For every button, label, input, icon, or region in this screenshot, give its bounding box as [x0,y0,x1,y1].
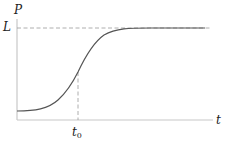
x-axis-label: t [216,114,221,126]
y-axis-label: P [14,4,22,16]
t0-label: t0 [72,126,82,140]
chart-canvas [0,0,227,141]
t0-subscript: 0 [77,131,82,140]
logistic-chart: P L t t0 [0,0,227,141]
asymptote-label: L [3,21,11,33]
sigmoid-curve [17,28,205,111]
